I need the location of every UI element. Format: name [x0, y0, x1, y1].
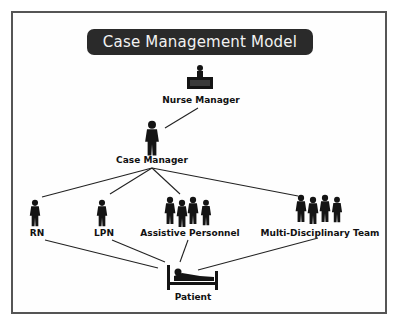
case-manager-person-icon [145, 121, 159, 156]
rn-person-icon [30, 200, 40, 226]
case-manager-label: Case Manager [116, 155, 188, 165]
assistive-personnel-group-icon [165, 197, 211, 227]
assistive-personnel-label: Assistive Personnel [140, 228, 239, 238]
icons-layer [0, 0, 398, 327]
patient-label: Patient [175, 292, 212, 302]
lpn-label: LPN [94, 228, 114, 238]
rn-label: RN [30, 228, 44, 238]
lpn-person-icon [97, 200, 107, 226]
nurse-manager-label: Nurse Manager [162, 95, 239, 105]
multi-disciplinary-team-group-icon [296, 195, 342, 224]
multi-disciplinary-team-label: Multi-Disciplinary Team [261, 228, 380, 238]
patient-in-bed-icon [167, 265, 218, 290]
nurse-manager-at-desk-icon [187, 65, 213, 89]
